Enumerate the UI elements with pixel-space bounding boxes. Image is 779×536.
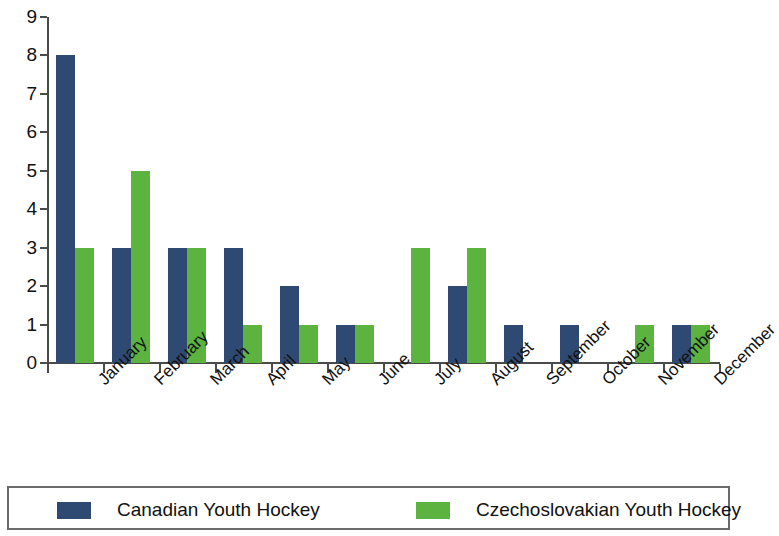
bar [131,171,150,363]
x-tick-label: July [431,376,444,389]
y-tick-label: 1 [7,315,37,334]
y-tick [40,170,47,172]
bar-group [560,17,598,363]
bar-group [672,17,710,363]
bar [75,248,94,363]
y-tick-label: 5 [7,161,37,180]
y-tick [40,324,47,326]
x-tick [47,364,49,373]
x-tick [383,364,385,373]
bar [504,325,523,363]
y-tick [40,208,47,210]
x-tick [271,364,273,373]
y-tick [40,16,47,18]
x-tick [215,364,217,373]
bar [672,325,691,363]
legend-label-czechoslovakian: Czechoslovakian Youth Hockey [476,500,741,520]
legend-label-canadian: Canadian Youth Hockey [117,500,320,520]
legend-swatch-icon-canadian [57,502,91,519]
x-tick [663,364,665,373]
x-tick-label: December [711,376,724,389]
x-tick-label: June [375,376,388,389]
bar [336,325,355,363]
y-tick-label: 9 [7,7,37,26]
x-tick-label: March [207,376,220,389]
x-tick [439,364,441,373]
bar [560,325,579,363]
x-tick-label: January [95,376,108,389]
bar-group [336,17,374,363]
bar [112,248,131,363]
x-tick [719,364,721,373]
x-tick-label: April [263,376,276,389]
x-tick [103,364,105,373]
y-tick [40,54,47,56]
bar-group [504,17,542,363]
y-tick [40,362,47,364]
bar-group [280,17,318,363]
y-tick-label: 4 [7,199,37,218]
bar [299,325,318,363]
bar [355,325,374,363]
bar-group [224,17,262,363]
x-tick-label: February [151,376,164,389]
bar [224,248,243,363]
x-tick [607,364,609,373]
legend-entry-czechoslovakian: Czechoslovakian Youth Hockey [416,500,741,520]
bar [168,248,187,363]
bar [243,325,262,363]
x-tick-label: May [319,376,332,389]
x-tick-label: October [599,376,612,389]
bar [691,325,710,363]
legend-entry-canadian: Canadian Youth Hockey [57,500,320,520]
x-tick [551,364,553,373]
x-tick-label: November [655,376,668,389]
y-tick-label: 2 [7,276,37,295]
x-tick [495,364,497,373]
y-tick-label: 7 [7,84,37,103]
x-tick-label: August [487,376,500,389]
bar [635,325,654,363]
bar-group [616,17,654,363]
plot-area: 0123456789 [47,17,719,363]
bar [187,248,206,363]
bar [280,286,299,363]
bar-group [392,17,430,363]
y-tick [40,247,47,249]
bar-group [112,17,150,363]
bar [467,248,486,363]
y-tick-label: 8 [7,45,37,64]
bar-group [448,17,486,363]
y-tick [40,131,47,133]
bar [448,286,467,363]
y-tick [40,285,47,287]
bar [56,55,75,363]
bar-group [56,17,94,363]
x-tick-label: September [543,376,556,389]
y-tick-label: 6 [7,122,37,141]
legend-swatch-icon-czechoslovakian [416,502,450,519]
y-tick-label: 3 [7,238,37,257]
x-tick [327,364,329,373]
y-tick-label: 0 [7,353,37,372]
y-tick [40,93,47,95]
chart-legend: Canadian Youth Hockey Czechoslovakian Yo… [7,486,730,530]
x-tick [159,364,161,373]
bar [411,248,430,363]
bar-group [168,17,206,363]
